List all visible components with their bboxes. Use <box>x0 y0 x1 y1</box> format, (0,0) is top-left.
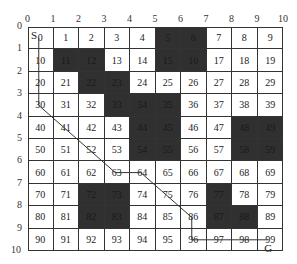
cell-number: 6 <box>191 32 196 43</box>
cell-number: 20 <box>35 77 45 88</box>
grid-cell: 37 <box>207 94 233 116</box>
grid-cell: 13 <box>105 49 131 71</box>
cell-number: 88 <box>239 211 249 222</box>
cell-number: 39 <box>265 99 275 110</box>
obstacle-cell: 6 <box>181 27 207 49</box>
obstacle-cell: 12 <box>79 49 105 71</box>
cell-number: 8 <box>242 32 247 43</box>
grid-cell: 76 <box>181 184 207 206</box>
grid-cell: 29 <box>258 72 284 94</box>
grid-cell: 60 <box>28 161 54 183</box>
grid-cell: 10 <box>28 49 54 71</box>
y-tick-label: 3 <box>17 88 22 98</box>
cell-number: 5 <box>165 32 170 43</box>
cell-number: 61 <box>61 167 71 178</box>
cell-number: 14 <box>137 55 147 66</box>
grid-cell: 94 <box>130 229 156 251</box>
cell-number: 51 <box>61 144 71 155</box>
cell-number: 58 <box>239 144 249 155</box>
x-tick-label: 9 <box>255 14 260 24</box>
cell-number: 77 <box>214 189 224 200</box>
obstacle-cell: 54 <box>130 139 156 161</box>
cell-number: 18 <box>239 55 249 66</box>
grid-cell: 93 <box>105 229 131 251</box>
cell-number: 3 <box>114 32 119 43</box>
grid-cell: 69 <box>258 161 284 183</box>
cell-number: 83 <box>112 211 122 222</box>
cell-number: 13 <box>112 55 122 66</box>
y-tick-label: 5 <box>17 133 22 143</box>
grid-cell: 61 <box>54 161 80 183</box>
obstacle-cell: 16 <box>181 49 207 71</box>
cell-number: 92 <box>86 234 96 245</box>
grid-cell: 47 <box>207 117 233 139</box>
obstacle-cell: 23 <box>105 72 131 94</box>
grid-cell: 20 <box>28 72 54 94</box>
cell-number: 1 <box>63 32 68 43</box>
grid-cell: 79 <box>258 184 284 206</box>
grid-cell: 97 <box>207 229 233 251</box>
cell-number: 12 <box>86 55 96 66</box>
grid-cell: 21 <box>54 72 80 94</box>
obstacle-cell: 34 <box>130 94 156 116</box>
obstacle-cell: 48 <box>232 117 258 139</box>
grid-cell: 30 <box>28 94 54 116</box>
cell-number: 54 <box>137 144 147 155</box>
cell-number: 85 <box>163 211 173 222</box>
cell-number: 75 <box>163 189 173 200</box>
cell-number: 16 <box>188 55 198 66</box>
obstacle-cell: 59 <box>258 139 284 161</box>
x-tick-label: 10 <box>278 14 288 24</box>
cell-number: 21 <box>61 77 71 88</box>
cell-number: 98 <box>239 234 249 245</box>
cell-number: 37 <box>214 99 224 110</box>
cell-number: 76 <box>188 189 198 200</box>
cell-number: 84 <box>137 211 147 222</box>
cell-number: 86 <box>188 211 198 222</box>
obstacle-cell: 58 <box>232 139 258 161</box>
cell-number: 0 <box>38 32 43 43</box>
grid-cell: 14 <box>130 49 156 71</box>
cell-number: 52 <box>86 144 96 155</box>
cell-number: 73 <box>112 189 122 200</box>
grid-cell: 31 <box>54 94 80 116</box>
grid-cell: 24 <box>130 72 156 94</box>
cell-number: 78 <box>239 189 249 200</box>
cell-number: 15 <box>163 55 173 66</box>
grid-cell: 17 <box>207 49 233 71</box>
grid-cell: 70 <box>28 184 54 206</box>
cell-number: 22 <box>86 77 96 88</box>
cell-number: 90 <box>35 234 45 245</box>
obstacle-cell: 72 <box>79 184 105 206</box>
cell-number: 82 <box>86 211 96 222</box>
grid-cell: 39 <box>258 94 284 116</box>
cell-number: 44 <box>137 122 147 133</box>
x-tick-label: 8 <box>229 14 234 24</box>
x-tick-label: 7 <box>204 14 209 24</box>
cell-number: 2 <box>89 32 94 43</box>
grid-cell: 90 <box>28 229 54 251</box>
y-tick-label: 10 <box>11 245 21 255</box>
cell-number: 48 <box>239 122 249 133</box>
cell-number: 62 <box>86 167 96 178</box>
cell-number: 64 <box>137 167 147 178</box>
cell-number: 28 <box>239 77 249 88</box>
y-tick-label: 7 <box>17 178 22 188</box>
start-marker: S <box>31 30 37 41</box>
grid-cell: 64 <box>130 161 156 183</box>
cell-number: 9 <box>268 32 273 43</box>
cell-number: 80 <box>35 211 45 222</box>
cell-number: 49 <box>265 122 275 133</box>
cell-number: 66 <box>188 167 198 178</box>
obstacle-cell: 73 <box>105 184 131 206</box>
grid-cell: 80 <box>28 206 54 228</box>
cell-number: 46 <box>188 122 198 133</box>
cell-number: 17 <box>214 55 224 66</box>
grid-cell: 71 <box>54 184 80 206</box>
x-tick-label: 3 <box>102 14 107 24</box>
grid-cell: 66 <box>181 161 207 183</box>
grid-cell: 8 <box>232 27 258 49</box>
grid-cell: 52 <box>79 139 105 161</box>
grid-cell: 9 <box>258 27 284 49</box>
cell-number: 60 <box>35 167 45 178</box>
